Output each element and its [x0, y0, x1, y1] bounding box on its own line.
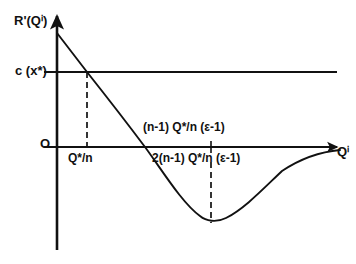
x-axis-label: Qⁱ [337, 145, 349, 158]
y-axis-label: R'(Qⁱ) [14, 14, 47, 27]
tick-label-zero-crossing: (n-1) Q*/n (ε-1) [143, 121, 225, 133]
tick-label-curve-minimum: 2(n-1) Q*/n (ε-1) [152, 152, 240, 164]
tick-label-q-star-over-n: Q*/n [68, 152, 93, 164]
cost-reference-label: c (x*) [15, 64, 47, 77]
origin-label: O [40, 137, 50, 150]
economics-diagram: R'(Qⁱ) c (x*) O Q*/n (n-1) Q*/n (ε-1) 2(… [0, 0, 356, 264]
